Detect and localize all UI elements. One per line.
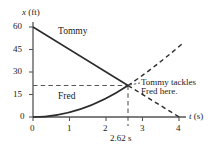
y-tick-label-30: 30 <box>13 67 22 76</box>
tackle-annotation-line2: Fred here. <box>141 87 196 96</box>
physics-position-time-graph: x (ft) t (s) 60 45 30 15 0 0 1 2 3 4 Tom… <box>0 0 218 154</box>
y-tick-label-45: 45 <box>13 45 22 54</box>
x-tick-label-2: 2 <box>103 124 108 133</box>
y-tick-label-0: 0 <box>20 112 25 121</box>
y-tick-label-60: 60 <box>13 22 22 31</box>
y-axis-title: x (ft) <box>22 8 40 17</box>
fred-curve-solid <box>33 86 128 118</box>
y-tick-label-15: 15 <box>13 90 22 99</box>
tackle-annotation: Tommy tackles Fred here. <box>141 78 196 96</box>
series-label-fred: Fred <box>58 92 75 102</box>
y-axis-unit: (ft) <box>26 7 40 17</box>
x-axis-unit: (s) <box>192 111 204 121</box>
x-axis-title: t (s) <box>189 112 203 121</box>
x-tick-label-1: 1 <box>67 124 72 133</box>
x-tick-label-0: 0 <box>30 124 35 133</box>
intersection-time-label: 2.62 s <box>110 134 132 143</box>
x-tick-label-4: 4 <box>176 124 181 133</box>
x-tick-label-3: 3 <box>140 124 145 133</box>
series-label-tommy: Tommy <box>58 27 87 37</box>
